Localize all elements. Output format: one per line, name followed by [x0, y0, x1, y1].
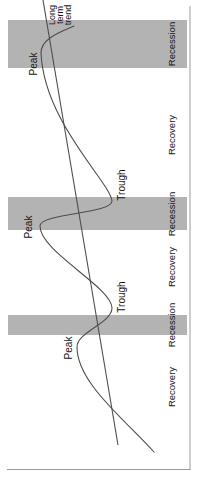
phase-label-recession-3: Recession: [167, 22, 177, 66]
peak-label-2: Peak: [24, 216, 34, 239]
long-term-trend-label: Long term trend: [48, 5, 72, 26]
recession-band-2: [8, 197, 187, 230]
chart-rotated-canvas: Peak Peak Peak Trough Trough Long term t…: [0, 0, 200, 477]
phase-label-recession-1: Recession: [167, 303, 177, 347]
phase-label-recovery-2: Recovery: [167, 247, 177, 287]
phase-label-recovery-1: Recovery: [167, 367, 177, 407]
phase-label-recovery-3: Recovery: [167, 115, 177, 155]
phase-label-recession-2: Recession: [167, 192, 177, 236]
trough-label-2: Trough: [117, 169, 127, 200]
business-cycle-figure: Peak Peak Peak Trough Trough Long term t…: [0, 0, 200, 477]
business-cycle-curve: [40, 26, 154, 452]
trough-label-1: Trough: [117, 281, 127, 312]
peak-label-3: Peak: [29, 53, 39, 76]
long-term-trend-label-line3: trend: [64, 5, 72, 26]
peak-label-1: Peak: [64, 337, 74, 360]
